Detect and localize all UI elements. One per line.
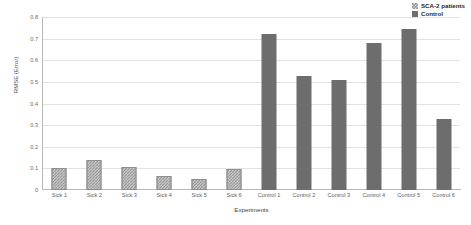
bar-slot (112, 17, 147, 190)
bar[interactable] (192, 179, 207, 190)
bar-slot (77, 17, 112, 190)
y-tick-label: 0.4 (30, 101, 38, 107)
x-tick-label: Sick 2 (77, 192, 112, 198)
bar-slot (391, 17, 426, 190)
bars-container (42, 17, 461, 190)
x-tick-label: Control 1 (252, 192, 287, 198)
bar-slot (217, 17, 252, 190)
bar[interactable] (401, 29, 416, 190)
bar[interactable] (122, 167, 137, 190)
x-tick-label: Sick 3 (112, 192, 147, 198)
y-tick-label: 0.2 (30, 144, 38, 150)
bar[interactable] (261, 34, 276, 190)
bar[interactable] (157, 176, 172, 190)
bar[interactable] (87, 160, 102, 190)
crosshatch-swatch-icon (412, 3, 418, 9)
x-tick-label: Sick 4 (147, 192, 182, 198)
bar[interactable] (331, 80, 346, 190)
bar-slot (252, 17, 287, 190)
x-tick-label: Sick 5 (182, 192, 217, 198)
x-tick-label: Control 5 (391, 192, 426, 198)
legend-label-sca2-patients: SCA-2 patients (421, 3, 465, 9)
x-axis-title: Experiments (42, 206, 461, 213)
bar-slot (147, 17, 182, 190)
y-axis-ticks: 0.8 0.7 0.6 0.5 0.4 0.3 0.2 0.1 0 (22, 17, 38, 190)
y-tick-label: 0.6 (30, 57, 38, 63)
bar-slot (356, 17, 391, 190)
y-tick-label: 0.3 (30, 122, 38, 128)
x-tick-label: Control 4 (356, 192, 391, 198)
x-axis-ticks: Sick 1Sick 2Sick 3Sick 4Sick 5Sick 6Cont… (42, 192, 461, 198)
bar-slot (321, 17, 356, 190)
bar-slot (42, 17, 77, 190)
bar-slot (182, 17, 217, 190)
x-tick-label: Sick 1 (42, 192, 77, 198)
x-tick-label: Sick 6 (217, 192, 252, 198)
y-tick-label: 0.5 (30, 79, 38, 85)
legend-item-sca2-patients[interactable]: SCA-2 patients (412, 3, 465, 9)
y-tick-label: 0.1 (30, 165, 38, 171)
chart-legend: SCA-2 patients Control (412, 3, 465, 17)
bar[interactable] (436, 119, 451, 190)
x-tick-label: Control 3 (321, 192, 356, 198)
y-tick-label: 0.7 (30, 36, 38, 42)
bar-chart: SCA-2 patients Control RMSE (Error) 0.8 … (0, 0, 471, 225)
bar[interactable] (296, 76, 311, 190)
bar-slot (286, 17, 321, 190)
y-axis-title: RMSE (Error) (13, 45, 19, 105)
x-tick-label: Control 6 (426, 192, 461, 198)
bar[interactable] (52, 168, 67, 190)
y-tick-label: 0 (35, 187, 38, 193)
bar-slot (426, 17, 461, 190)
y-tick-label: 0.8 (30, 14, 38, 20)
bar[interactable] (227, 169, 242, 190)
x-tick-label: Control 2 (286, 192, 321, 198)
bar[interactable] (366, 43, 381, 190)
